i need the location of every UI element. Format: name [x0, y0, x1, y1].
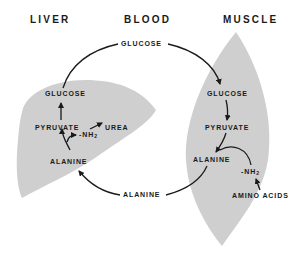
liver-alanine-label: ALANINE — [50, 158, 87, 165]
muscle-shape — [186, 32, 270, 246]
liver-shape — [17, 80, 156, 198]
header-blood: BLOOD — [124, 15, 171, 25]
liver-glucose-label: GLUCOSE — [45, 90, 86, 97]
liver-nh2-label: -NH2 — [79, 131, 98, 139]
muscle-nh2-subscript: 2 — [256, 170, 260, 176]
arrow-blood-alanine-to-liver — [79, 171, 120, 195]
muscle-amino-acids-label: AMINO ACIDS — [232, 192, 289, 199]
liver-urea-label: UREA — [105, 124, 128, 131]
muscle-nh2-label: -NH2 — [241, 168, 260, 176]
blood-alanine-label: ALANINE — [123, 191, 160, 198]
muscle-glucose-label: GLUCOSE — [207, 90, 248, 97]
muscle-pyruvate-label: PYRUVATE — [205, 124, 249, 131]
liver-nh2-subscript: 2 — [94, 133, 98, 139]
muscle-alanine-label: ALANINE — [193, 156, 230, 163]
muscle-nh2-text: -NH — [241, 168, 256, 175]
header-liver: LIVER — [30, 15, 70, 25]
header-muscle: MUSCLE — [223, 15, 278, 25]
glucose-alanine-cycle-diagram: LIVER BLOOD MUSCLE GLUCOSE ALANINE GLUCO… — [0, 0, 301, 253]
liver-nh2-text: -NH — [79, 131, 94, 138]
blood-glucose-label: GLUCOSE — [121, 40, 162, 47]
liver-pyruvate-label: PYRUVATE — [35, 124, 79, 131]
